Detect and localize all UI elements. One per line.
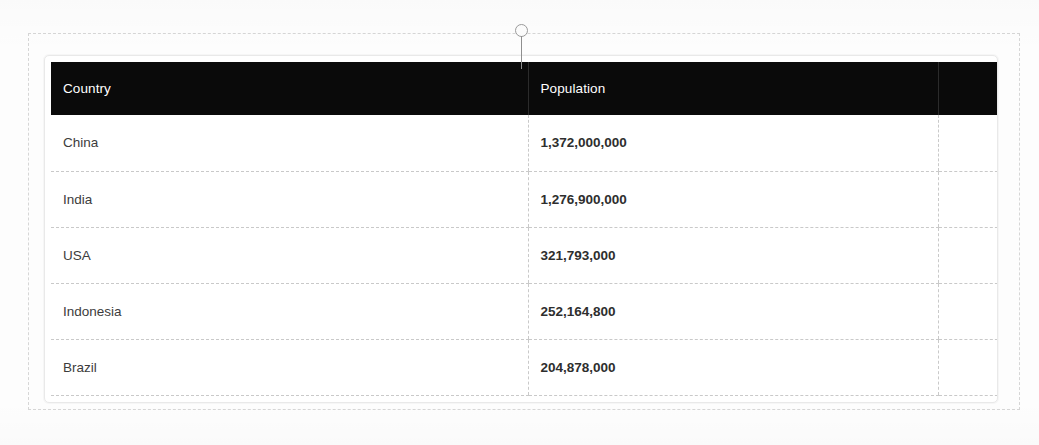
cell-country[interactable]: USA [51,227,528,283]
table-row[interactable]: India 1,276,900,000 [51,171,998,227]
column-resize-stem-icon [521,36,522,69]
table-row[interactable]: Brazil 204,878,000 [51,339,998,395]
cell-spacer[interactable] [939,339,998,395]
cell-country[interactable]: Indonesia [51,283,528,339]
table-row[interactable]: USA 321,793,000 [51,227,998,283]
cell-spacer[interactable] [939,115,998,171]
table-body: China 1,372,000,000 India 1,276,900,000 … [51,115,998,395]
table-header: Country Population [51,62,998,115]
cell-population[interactable]: 321,793,000 [528,227,939,283]
cell-spacer[interactable] [939,171,998,227]
cell-population[interactable]: 1,276,900,000 [528,171,939,227]
column-header-country[interactable]: Country [51,62,528,115]
population-table-block[interactable]: Country Population China 1,372,000,000 I… [44,55,998,403]
cell-spacer[interactable] [939,283,998,339]
table-row[interactable]: Indonesia 252,164,800 [51,283,998,339]
document-canvas: Country Population China 1,372,000,000 I… [0,0,1039,445]
cell-population[interactable]: 1,372,000,000 [528,115,939,171]
cell-country[interactable]: Brazil [51,339,528,395]
population-table[interactable]: Country Population China 1,372,000,000 I… [51,62,998,396]
cell-spacer[interactable] [939,227,998,283]
column-resize-handle[interactable] [515,24,529,69]
cell-population[interactable]: 252,164,800 [528,283,939,339]
table-header-row: Country Population [51,62,998,115]
cell-country[interactable]: India [51,171,528,227]
cell-population[interactable]: 204,878,000 [528,339,939,395]
column-header-population[interactable]: Population [528,62,939,115]
table-row[interactable]: China 1,372,000,000 [51,115,998,171]
cell-country[interactable]: China [51,115,528,171]
column-header-spacer[interactable] [939,62,998,115]
